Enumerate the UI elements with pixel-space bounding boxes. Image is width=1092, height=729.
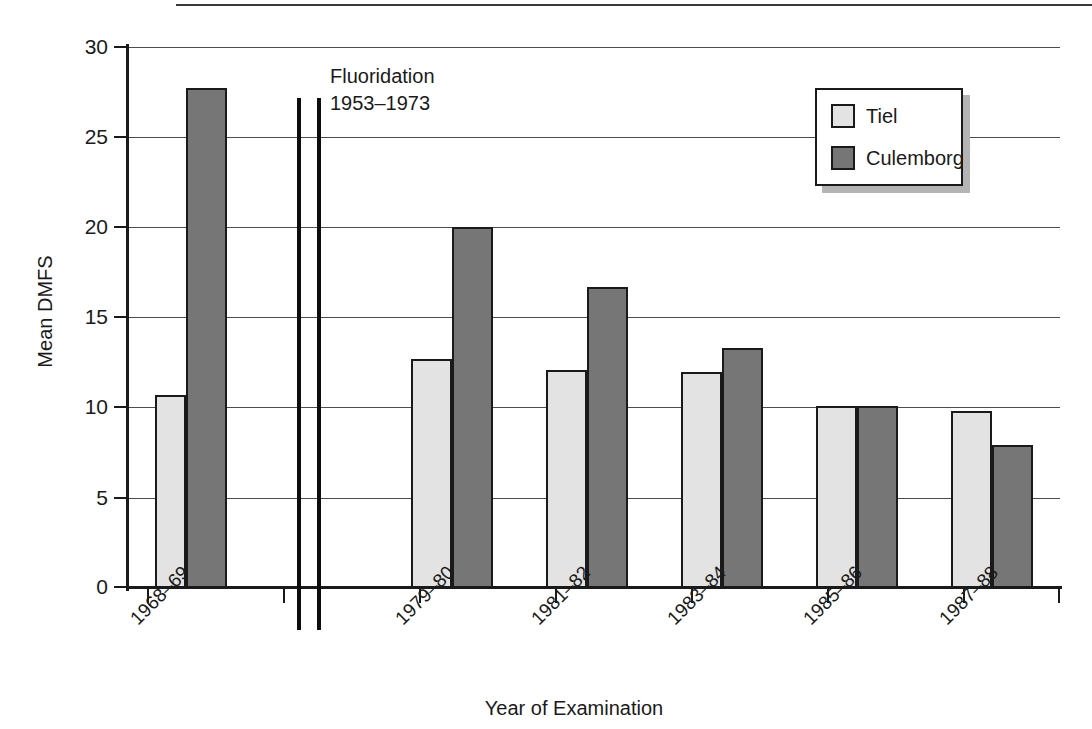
fluoridation-annotation-line1: Fluoridation [330, 65, 435, 87]
legend-item-tiel[interactable]: Tiel [831, 104, 897, 128]
x-axis-line [126, 586, 1062, 589]
y-tick-label-5: 5 [0, 487, 108, 508]
legend-label-tiel: Tiel [866, 105, 897, 128]
y-tick-25 [114, 136, 128, 138]
bar-tiel-1983-84[interactable] [681, 372, 722, 588]
legend-label-culemborg: Culemborg [866, 147, 964, 170]
y-axis-title: Mean DMFS [34, 212, 57, 412]
bar-tiel-1968-69[interactable] [155, 395, 186, 588]
x-tick-7 [1058, 589, 1060, 603]
y-tick-20 [114, 226, 128, 228]
bar-culemborg-1985-86[interactable] [857, 406, 898, 588]
bar-tiel-1981-82[interactable] [546, 370, 587, 588]
top-divider-rule [176, 4, 1092, 6]
x-axis-title-text: Year of Examination [485, 697, 663, 719]
x-axis-title: Year of Examination [0, 697, 1092, 720]
x-tick-1 [283, 589, 285, 603]
legend-item-culemborg[interactable]: Culemborg [831, 146, 964, 170]
axis-break-line-left [297, 98, 301, 630]
legend-swatch-tiel-icon [831, 104, 855, 128]
axis-break-line-right [317, 98, 321, 630]
bar-culemborg-1979-80[interactable] [452, 227, 493, 588]
chart-figure: 30 25 20 15 10 5 0 Mean DMFS 1968–69 197… [0, 0, 1092, 729]
legend-swatch-culemborg-icon [831, 146, 855, 170]
y-tick-10 [114, 406, 128, 408]
y-tick-15 [114, 316, 128, 318]
y-tick-30 [114, 46, 128, 48]
bar-culemborg-1981-82[interactable] [587, 287, 628, 588]
y-tick-5 [114, 497, 128, 499]
y-tick-label-25: 25 [0, 126, 108, 147]
legend-box: Tiel Culemborg [815, 88, 963, 186]
y-tick-label-0: 0 [0, 576, 108, 597]
bar-culemborg-1987-88[interactable] [992, 445, 1033, 588]
fluoridation-annotation-line2: 1953–1973 [330, 90, 435, 117]
bar-tiel-1979-80[interactable] [411, 359, 452, 588]
bar-culemborg-1983-84[interactable] [722, 348, 763, 588]
bar-culemborg-1968-69[interactable] [186, 88, 227, 588]
y-tick-label-30: 30 [0, 36, 108, 57]
y-tick-0 [114, 586, 128, 588]
fluoridation-annotation: Fluoridation 1953–1973 [330, 63, 435, 117]
